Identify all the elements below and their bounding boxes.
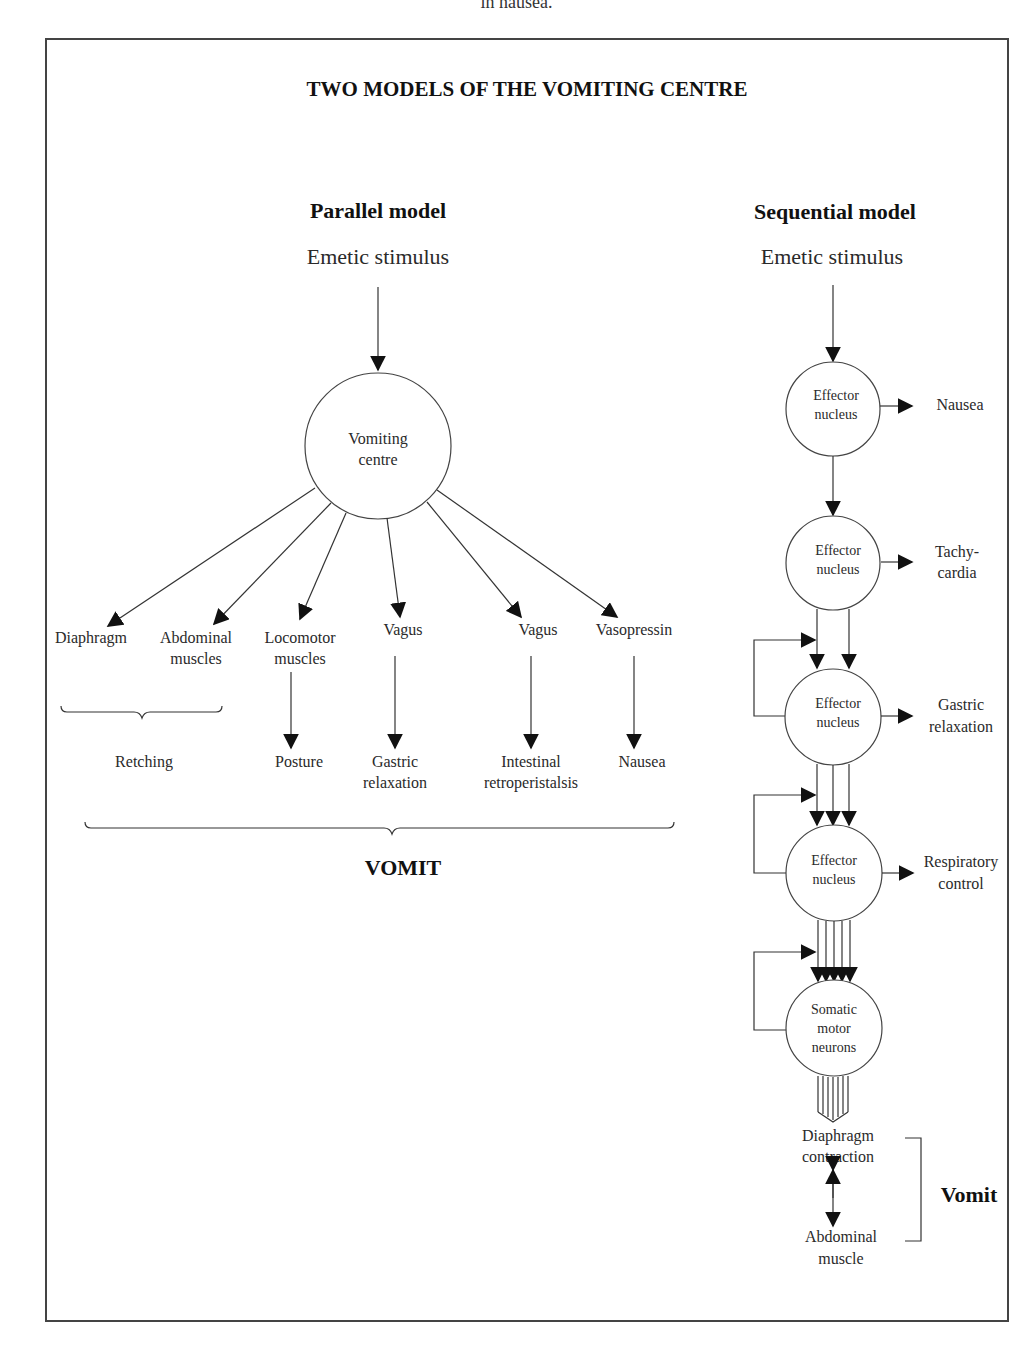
vomiting-centre-diagram: TWO MODELS OF THE VOMITING CENTRE Parall… (0, 0, 1033, 1355)
node-1-label-1: Effector (813, 388, 859, 403)
sequential-heading: Sequential model (754, 199, 916, 224)
abdominal-muscle-1: Abdominal (805, 1228, 878, 1245)
node-5-label-1: Somatic (811, 1002, 857, 1017)
parallel-result: VOMIT (365, 855, 442, 880)
node-3-label-2: nucleus (817, 715, 860, 730)
node-4-label-1: Effector (811, 853, 857, 868)
arrow-to-abdominal (214, 503, 331, 624)
output-tachycardia-2: cardia (937, 564, 976, 581)
sequential-stimulus: Emetic stimulus (761, 244, 903, 269)
node-2-label-2: nucleus (817, 562, 860, 577)
arrow-to-vagus-1 (387, 518, 400, 617)
arrow-to-vagus-2 (427, 502, 521, 617)
target-vasopressin: Vasopressin (596, 621, 672, 639)
node-5-label-3: neurons (812, 1040, 856, 1055)
outcome-posture: Posture (275, 753, 323, 770)
output-tachycardia-1: Tachy- (935, 543, 979, 561)
target-abdominal-1: Abdominal (160, 629, 233, 646)
arrow-to-locomotor (300, 513, 346, 619)
arrow-to-vasopressin (437, 490, 617, 617)
outcome-nausea: Nausea (618, 753, 665, 770)
target-diaphragm: Diaphragm (55, 629, 128, 647)
retching-brace (61, 706, 222, 718)
node-1-label-2: nucleus (815, 407, 858, 422)
parallel-heading: Parallel model (310, 198, 446, 223)
node-3-label-1: Effector (815, 696, 861, 711)
output-respiratory-2: control (938, 875, 984, 892)
figure-title: TWO MODELS OF THE VOMITING CENTRE (307, 77, 748, 101)
node-4-label-2: nucleus (813, 872, 856, 887)
outcome-intestinal-2: retroperistalsis (484, 774, 578, 792)
vomiting-centre-label-2: centre (358, 451, 397, 468)
parallel-model: Parallel model Emetic stimulus Vomiting … (55, 198, 674, 880)
node-2-label-1: Effector (815, 543, 861, 558)
output-gastric-2: relaxation (929, 718, 993, 735)
diaphragm-contraction-2: contraction (802, 1148, 874, 1165)
parallel-stimulus: Emetic stimulus (307, 244, 449, 269)
output-respiratory-1: Respiratory (924, 853, 999, 871)
output-nausea: Nausea (936, 396, 983, 413)
sequential-model: Sequential model Emetic stimulus Effecto… (754, 199, 998, 1267)
outcome-gastric-1: Gastric (372, 753, 418, 770)
abdominal-muscle-2: muscle (818, 1250, 863, 1267)
outcome-retching: Retching (115, 753, 173, 771)
node-5-label-2: motor (817, 1021, 851, 1036)
output-gastric-1: Gastric (938, 696, 984, 713)
sequential-result: Vomit (941, 1182, 998, 1207)
target-locomotor-2: muscles (274, 650, 326, 667)
arrow-to-diaphragm (108, 488, 315, 626)
vomiting-centre-label-1: Vomiting (348, 430, 407, 448)
vomit-brace (85, 822, 674, 834)
target-vagus-2: Vagus (518, 621, 557, 639)
outcome-intestinal-1: Intestinal (501, 753, 561, 770)
diaphragm-contraction-1: Diaphragm (802, 1127, 875, 1145)
output-bundle (818, 1076, 848, 1122)
target-locomotor-1: Locomotor (264, 629, 336, 646)
target-abdominal-2: muscles (170, 650, 222, 667)
vomit-bracket (905, 1138, 921, 1241)
outcome-gastric-2: relaxation (363, 774, 427, 791)
target-vagus-1: Vagus (383, 621, 422, 639)
